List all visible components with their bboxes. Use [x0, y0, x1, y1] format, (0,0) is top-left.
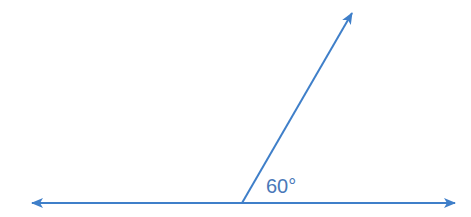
angle-label: 60° [266, 175, 296, 198]
angle-diagram [0, 0, 471, 217]
angle-ray [242, 13, 352, 203]
